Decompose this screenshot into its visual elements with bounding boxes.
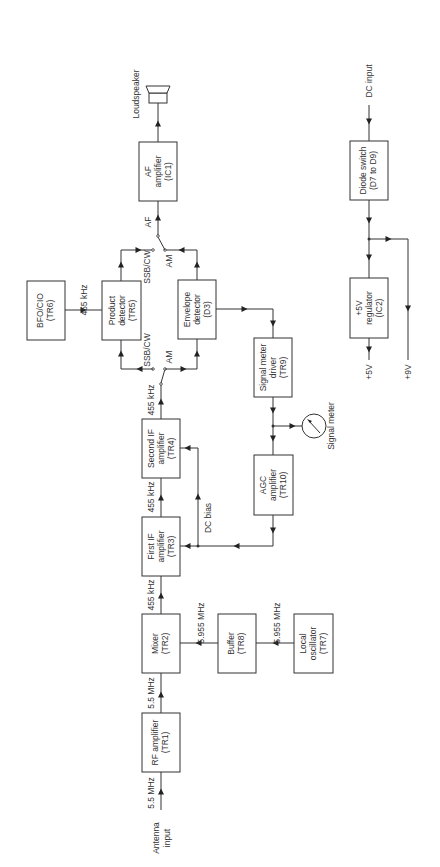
svg-text:(D7 to D9): (D7 to D9)	[368, 151, 378, 190]
loudspeaker-icon	[146, 86, 170, 103]
plus9v-label: +9V	[403, 364, 413, 380]
svg-text:oscillator: oscillator	[308, 627, 318, 661]
svg-text:regulator: regulator	[364, 291, 374, 325]
block-5v-regulator: +5V regulator (IC2)	[350, 278, 388, 338]
svg-text:(TR8): (TR8)	[236, 632, 246, 654]
freq-if1-out: 455 kHz	[146, 481, 156, 512]
receiver-block-diagram: RF amplifier (TR1) Mixer (TR2) First IF …	[0, 0, 440, 867]
svg-text:amplifier: amplifier	[156, 432, 166, 464]
block-local-oscillator: Local oscillator (TR7)	[294, 614, 333, 673]
svg-text:(IC2): (IC2)	[374, 298, 384, 317]
svg-text:(TR7): (TR7)	[318, 632, 328, 654]
block-bfo: BFO/CIO (TR6)	[27, 281, 65, 340]
svg-text:Product: Product	[107, 295, 117, 325]
svg-text:amplifier: amplifier	[268, 469, 278, 501]
svg-text:+5V: +5V	[354, 300, 364, 316]
svg-text:AGC: AGC	[258, 476, 268, 494]
svg-text:RF amplifier: RF amplifier	[150, 719, 160, 765]
svg-text:(TR4): (TR4)	[166, 437, 176, 459]
detector-input-switch	[118, 339, 200, 385]
af-label: AF	[143, 217, 153, 228]
svg-text:(TR3): (TR3)	[166, 535, 176, 557]
freq-if2-out: 455 kHz	[146, 384, 156, 415]
svg-text:Mixer: Mixer	[150, 633, 160, 654]
ssb-cw-output-label: SSB/CW	[142, 250, 152, 284]
svg-text:Signal meter: Signal meter	[258, 343, 268, 391]
loudspeaker-label: Loudspeaker	[131, 69, 141, 118]
detector-output-switch	[118, 201, 200, 281]
freq-rf-out: 5.5 MHz	[146, 677, 156, 709]
block-af-amplifier: AF amplifier (IC1)	[139, 142, 177, 201]
af-to-speaker-wire	[155, 103, 161, 142]
block-signal-meter-driver: Signal meter driver (TR9)	[254, 338, 292, 397]
dc-input-label: DC input	[364, 64, 374, 98]
freq-mixer-out: 455 kHz	[146, 579, 156, 610]
block-product-detector: Product detector (TR5)	[102, 281, 141, 340]
antenna-input-wire	[158, 772, 164, 810]
svg-text:(TR5): (TR5)	[127, 299, 137, 321]
block-buffer: Buffer (TR8)	[218, 614, 256, 673]
if1-to-if2-wire	[158, 478, 164, 517]
svg-text:(TR1): (TR1)	[160, 731, 170, 753]
svg-text:detector: detector	[117, 295, 127, 326]
dc-input-wire	[366, 105, 372, 141]
freq-bfo: 455 kHz	[79, 284, 89, 315]
envelope-to-meter-wire	[216, 306, 276, 338]
block-diode-switch: Diode switch (D7 to D9)	[350, 141, 388, 200]
svg-text:(TR2): (TR2)	[160, 632, 170, 654]
dc-bias-label: DC bias	[203, 503, 213, 533]
block-envelope-detector: Envelope detector (D3)	[178, 280, 216, 339]
svg-text:First IF: First IF	[146, 533, 156, 559]
meter-driver-to-agc-wire	[270, 397, 302, 455]
svg-text:Local: Local	[298, 633, 308, 653]
svg-text:Diode switch: Diode switch	[358, 146, 368, 194]
block-agc-amplifier: AGC amplifier (TR10)	[254, 455, 293, 515]
svg-text:driver: driver	[268, 357, 278, 378]
svg-text:(IC1): (IC1)	[163, 162, 173, 181]
svg-text:Buffer: Buffer	[226, 632, 236, 655]
svg-text:amplifier: amplifier	[153, 155, 163, 187]
antenna-label-line2: input	[162, 828, 172, 847]
svg-text:(TR9): (TR9)	[278, 356, 288, 378]
svg-text:(D3): (D3)	[202, 301, 212, 318]
am-output-label: AM	[164, 255, 174, 268]
regulator-output-wire	[366, 338, 372, 360]
svg-text:Second IF: Second IF	[146, 429, 156, 468]
signal-meter-label: Signal meter	[326, 402, 336, 450]
mixer-to-if1-wire	[158, 576, 164, 614]
block-first-if-amplifier: First IF amplifier (TR3)	[142, 517, 180, 576]
plus5v-label: +5V	[364, 364, 374, 380]
svg-text:detector: detector	[192, 294, 202, 325]
freq-antenna: 5.5 MHz	[146, 777, 156, 809]
antenna-label-line1: Antenna	[151, 822, 161, 854]
block-second-if-amplifier: Second IF amplifier (TR4)	[142, 419, 180, 478]
block-mixer: Mixer (TR2)	[142, 614, 180, 673]
svg-text:amplifier: amplifier	[156, 530, 166, 562]
am-input-label: AM	[164, 351, 174, 364]
block-rf-amplifier: RF amplifier (TR1)	[142, 713, 180, 772]
signal-meter-icon	[302, 414, 326, 438]
ssb-cw-input-label: SSB/CW	[142, 333, 152, 367]
svg-text:AF: AF	[143, 166, 153, 177]
rf-to-mixer-wire	[158, 673, 164, 713]
svg-text:(TR6): (TR6)	[45, 299, 55, 321]
freq-lo-out: 5.955 MHz	[272, 602, 282, 643]
svg-text:BFO/CIO: BFO/CIO	[35, 293, 45, 328]
svg-text:Envelope: Envelope	[182, 292, 192, 328]
if2-to-switch-wire	[158, 385, 164, 419]
freq-buffer-out: 5.955 MHz	[196, 602, 206, 643]
svg-text:(TR10): (TR10)	[278, 472, 288, 499]
